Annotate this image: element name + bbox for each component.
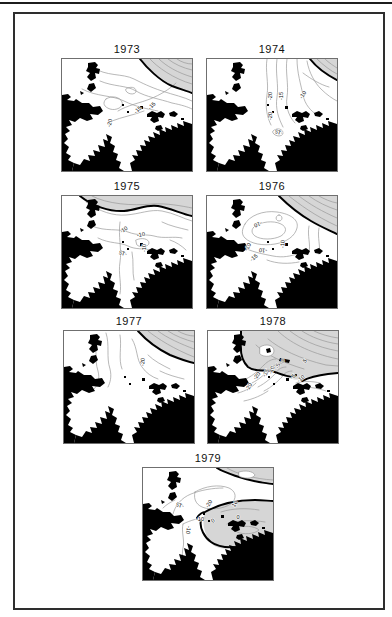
panel-year-title: 1976: [207, 179, 337, 193]
contour-map-1978: -20-15-10-505-5-10-20: [208, 331, 338, 443]
map-region: [142, 378, 145, 381]
map-panel-1979: 1979-15-2010-1000-10: [143, 451, 273, 580]
map-region: [127, 248, 129, 250]
contour-label: -20: [267, 112, 273, 120]
panel-year-title: 1978: [208, 314, 338, 328]
contour-map-1979: -15-2010-1000-10: [143, 468, 273, 580]
figure-frame: 1973-20-15-151974-20-15-20-15-101975-10-…: [13, 12, 385, 610]
map-panel-1977: 1977-20: [64, 314, 194, 443]
contour-label: -15: [278, 92, 284, 100]
map-panel-1976: 1976-10-10-10-10-15: [207, 179, 337, 308]
panel-year-title: 1974: [207, 42, 337, 56]
panel-year-title: 1973: [62, 42, 192, 56]
map-region: [285, 106, 288, 109]
contour-map-1975: -10-10-15-10: [62, 196, 192, 308]
map-region: [262, 527, 265, 529]
map-region: [221, 515, 224, 518]
map-region: [273, 383, 275, 385]
contour-map-1976: -10-10-10-10-15: [207, 196, 337, 308]
panel-year-title: 1975: [62, 179, 192, 193]
panel-year-title: 1977: [64, 314, 194, 328]
map-region: [327, 390, 330, 392]
map-region: [122, 241, 124, 243]
map-region: [272, 248, 274, 250]
map-region: [122, 104, 124, 106]
contour-label: -10: [141, 244, 147, 252]
map-region: [129, 383, 131, 385]
map-region: [124, 376, 126, 378]
panel-year-title: 1979: [143, 451, 273, 465]
map-region: [268, 376, 270, 378]
map-region: [183, 390, 186, 392]
map-panel-1974: 1974-20-15-20-15-10: [207, 42, 337, 171]
map-region: [267, 104, 269, 106]
page-top-rule: [0, 2, 392, 4]
contour-map-1973: -20-15-15: [62, 59, 192, 171]
contour-label: -10: [279, 240, 286, 249]
contour-label: 0: [236, 514, 239, 520]
contour-map-1977: -20: [64, 331, 194, 443]
map-panel-1973: 1973-20-15-15: [62, 42, 192, 171]
contour-label: -20: [267, 92, 273, 100]
contour-label: -10: [259, 247, 268, 254]
contour-label: -10: [196, 516, 204, 522]
contour-map-1974: -20-15-20-15-10: [207, 59, 337, 171]
map-region: [181, 255, 184, 257]
map-panel-1978: 1978-20-15-10-505-5-10-20: [208, 314, 338, 443]
map-region: [203, 513, 205, 515]
map-region: [326, 255, 329, 257]
map-region: [286, 378, 289, 381]
map-region: [127, 111, 129, 113]
map-region: [181, 118, 184, 120]
map-region: [326, 118, 329, 120]
map-panel-1975: 1975-10-10-15-10: [62, 179, 192, 308]
map-region: [267, 241, 269, 243]
contour-label: -20: [139, 358, 146, 367]
